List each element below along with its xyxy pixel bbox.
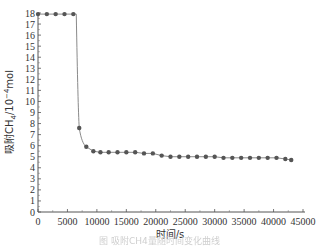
x-tick-label: 0 — [36, 216, 41, 227]
data-point — [248, 156, 252, 160]
y-tick-label: 4 — [30, 162, 35, 173]
data-point — [230, 156, 234, 160]
data-point — [186, 155, 190, 159]
data-point — [124, 150, 128, 154]
data-point — [239, 156, 243, 160]
y-tick-label: 3 — [30, 173, 35, 184]
data-point — [204, 155, 208, 159]
data-point — [221, 156, 225, 160]
x-tick-label: 20000 — [143, 216, 168, 227]
data-point — [212, 155, 216, 159]
data-point — [168, 155, 172, 159]
data-point — [195, 155, 199, 159]
y-tick-label: 7 — [30, 129, 35, 140]
data-point — [265, 156, 269, 160]
x-tick-label: 45000 — [291, 216, 316, 227]
figure-caption: 图 吸附CH4量随时间变化曲线 — [0, 234, 319, 247]
y-tick-label: 16 — [25, 30, 35, 41]
data-point — [151, 151, 155, 155]
chart: 0123456789101112131415161718 05000100001… — [0, 0, 319, 251]
y-tick-label: 18 — [25, 8, 35, 19]
y-tick-label: 11 — [25, 85, 35, 96]
data-point — [133, 150, 137, 154]
y-tick-label: 9 — [30, 107, 35, 118]
data-point — [283, 157, 287, 161]
y-tick-label: 6 — [30, 140, 35, 151]
axes — [38, 13, 305, 212]
data-point — [84, 145, 88, 149]
data-point — [115, 150, 119, 154]
y-tick-label: 15 — [25, 41, 35, 52]
y-tick-label: 5 — [30, 151, 35, 162]
y-tick-label: 2 — [30, 184, 35, 195]
x-tick-label: 10000 — [84, 216, 109, 227]
data-point — [91, 149, 95, 153]
x-tick-label: 5000 — [57, 216, 77, 227]
y-tick-label: 8 — [30, 118, 35, 129]
data-point — [53, 12, 57, 16]
data-point — [274, 156, 278, 160]
data-curve — [38, 14, 291, 160]
y-axis-title: 吸附CH4/10−4mol — [3, 70, 18, 154]
y-tick-label: 13 — [25, 63, 35, 74]
data-points — [36, 12, 294, 162]
x-tick-label: 40000 — [261, 216, 286, 227]
y-tick-label: 0 — [30, 207, 35, 218]
y-tick-label: 12 — [25, 74, 35, 85]
y-tick-label: 17 — [25, 19, 35, 30]
x-tick-label: 30000 — [202, 216, 227, 227]
data-point — [177, 155, 181, 159]
data-point — [45, 12, 49, 16]
x-tick-label: 35000 — [232, 216, 257, 227]
data-point — [71, 12, 75, 16]
y-axis-ticks: 0123456789101112131415161718 — [25, 8, 41, 218]
y-tick-label: 1 — [30, 195, 35, 206]
y-tick-label: 14 — [25, 52, 35, 63]
data-point — [289, 158, 293, 162]
data-point — [77, 126, 81, 130]
data-point — [106, 150, 110, 154]
data-point — [257, 156, 261, 160]
data-point — [98, 150, 102, 154]
y-tick-label: 10 — [25, 96, 35, 107]
data-point — [159, 153, 163, 157]
data-point — [62, 12, 66, 16]
data-point — [36, 12, 40, 16]
x-tick-label: 25000 — [173, 216, 198, 227]
x-tick-label: 15000 — [114, 216, 139, 227]
data-point — [142, 151, 146, 155]
